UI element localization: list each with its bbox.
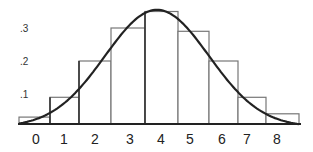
x-tick-label: 5 bbox=[186, 131, 194, 147]
x-tick-label: 0 bbox=[32, 131, 40, 147]
x-tick-label: 2 bbox=[91, 131, 99, 147]
x-tick-label: 7 bbox=[243, 131, 251, 147]
y-tick-label: .2 bbox=[20, 56, 29, 67]
x-tick-label: 4 bbox=[157, 131, 165, 147]
x-tick-labels: 012345678 bbox=[32, 131, 281, 147]
histogram-bars bbox=[19, 12, 299, 125]
y-tick-label: .1 bbox=[20, 89, 29, 100]
bar-5 bbox=[178, 31, 209, 124]
x-tick-label: 1 bbox=[60, 131, 68, 147]
bar-6 bbox=[209, 61, 238, 124]
x-tick-label: 6 bbox=[218, 131, 226, 147]
x-tick-label: 8 bbox=[273, 131, 281, 147]
x-tick-label: 3 bbox=[126, 131, 134, 147]
y-tick-label: .3 bbox=[20, 23, 29, 34]
y-tick-labels: .1.2.3 bbox=[20, 23, 29, 100]
bar-4 bbox=[145, 12, 178, 125]
histogram-chart: .1.2.3 012345678 bbox=[0, 0, 313, 152]
